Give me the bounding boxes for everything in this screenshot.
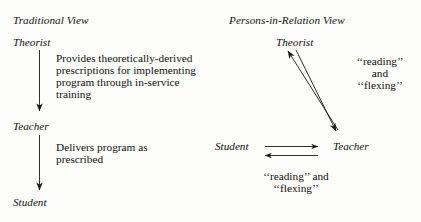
arrow-layer: [0, 0, 421, 222]
right-panel-heading: Persons-in-Relation View: [229, 14, 345, 26]
node-student-right: Student: [215, 140, 249, 152]
diagram-figure: Traditional View Theorist Provides theor…: [0, 0, 421, 222]
left-panel-heading: Traditional View: [13, 14, 89, 26]
node-teacher-left: Teacher: [13, 120, 49, 132]
label-teacher-to-student: Delivers program as prescribed: [56, 142, 148, 166]
arrow-theorist-to-teacher-diagonal: [296, 50, 336, 131]
label-theorist-to-teacher: Provides theoretically-derived prescript…: [56, 53, 196, 101]
node-teacher-right: Teacher: [333, 140, 369, 152]
node-theorist-right: Theorist: [276, 36, 313, 48]
arrow-teacher-to-theorist: [288, 51, 338, 130]
node-theorist-left: Theorist: [13, 36, 50, 48]
label-flexing-top: ‘‘flexing’’: [344, 79, 416, 91]
node-student-left: Student: [13, 196, 47, 208]
label-flexing-bottom: ‘‘flexing’’: [248, 182, 344, 194]
label-reading-bottom: ‘‘reading’’ and: [248, 170, 344, 182]
label-reading-top: ‘‘reading’’: [344, 55, 416, 67]
label-and-top: and: [344, 67, 416, 79]
